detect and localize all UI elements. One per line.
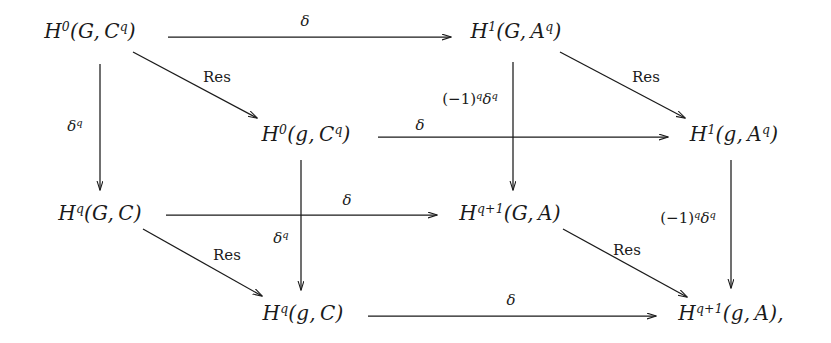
- diagram-arrows: H1(G,Aq) --> H1(g,Aq) (passes under col-…: [0, 0, 831, 343]
- label-res-lower-right: Res: [613, 241, 641, 259]
- arrow-res-lower-right: [563, 229, 687, 297]
- label-sign-delta-col3: (−1)qδq: [442, 90, 498, 109]
- label-delta-row3: δ: [342, 191, 351, 209]
- arrow-res-lower-left: [143, 229, 262, 296]
- node-h1-lie-aq: H1(g, Aq): [690, 122, 778, 147]
- node-hq-g-c: Hq(G, C): [58, 201, 142, 226]
- arrow-res-upper-right: [560, 52, 685, 118]
- arrow-res-top: [133, 52, 257, 118]
- label-res-upper-right: Res: [632, 68, 660, 86]
- label-delta-top: δ: [300, 12, 309, 30]
- node-hq1-lie-a: Hq+1(g, A),: [678, 301, 783, 326]
- label-delta-bottom: δ: [506, 291, 515, 309]
- node-h0-g-cq: H0(G, Cq): [44, 19, 136, 44]
- node-h0-lie-cq: H0(g, Cq): [261, 122, 350, 147]
- label-delta-q-left: δq: [67, 117, 82, 136]
- label-sign-delta-col4: (−1)qδq: [660, 209, 716, 228]
- label-res-lower-left: Res: [213, 246, 241, 264]
- commutative-diagram: H1(G,Aq) --> H1(g,Aq) (passes under col-…: [0, 0, 831, 343]
- node-hq1-g-a: Hq+1(G, A): [459, 201, 560, 226]
- label-delta-q-mid: δq: [273, 229, 288, 248]
- node-h1-g-aq-upper: H1(G, Aq): [471, 19, 562, 44]
- label-res-top: Res: [203, 68, 231, 86]
- label-delta-mid: δ: [415, 116, 424, 134]
- node-hq-lie-c: Hq(g, C): [262, 301, 343, 326]
